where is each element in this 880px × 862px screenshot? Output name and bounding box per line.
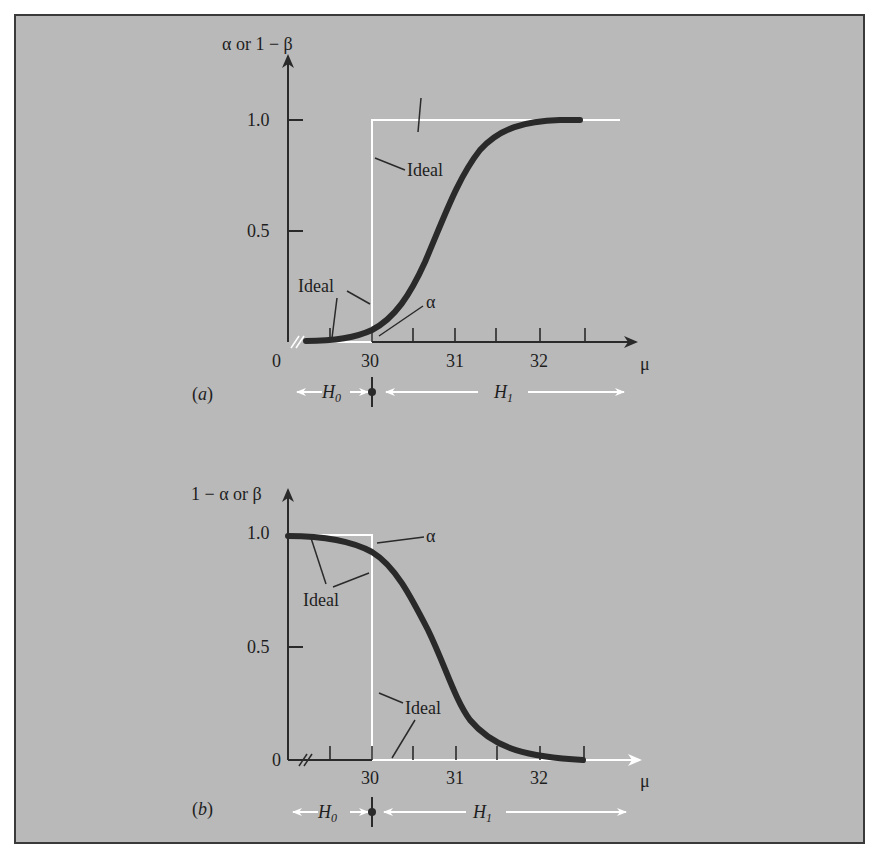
panel-b-label: (b) xyxy=(192,799,213,820)
panel-a-origin-label: 0 xyxy=(272,351,281,371)
panel-a-x-label: μ xyxy=(640,354,650,374)
panel-a-ideal-bottom-leader xyxy=(347,291,370,304)
panel-b-ytick-label-05: 0.5 xyxy=(247,637,270,657)
panel-a-power-curve xyxy=(306,120,580,341)
panel-b-alpha-label: α xyxy=(426,526,436,546)
panel-b-ideal-bottom-label: Ideal xyxy=(405,698,441,718)
panel-a-ytick-label-1: 1.0 xyxy=(247,110,270,130)
panel-a-xtick-30: 30 xyxy=(361,351,379,371)
panel-a-ideal-line xyxy=(305,120,620,342)
panel-b-ytick-label-1: 1.0 xyxy=(247,523,270,543)
panel-a-h1-label: H1 xyxy=(493,382,513,405)
panel-a-ideal-bottom-leader-2 xyxy=(332,298,337,338)
panel-a-ytick-label-05: 0.5 xyxy=(247,221,270,241)
panel-a-y-label: α or 1 − β xyxy=(222,34,293,54)
panel-a-h0-label: H0 xyxy=(321,382,341,405)
panel-b-h-divider-dot xyxy=(368,808,376,816)
panel-b-y-label: 1 − α or β xyxy=(191,484,262,504)
panel-b-h1-label: H1 xyxy=(472,802,492,825)
panel-a-ideal-bottom-label: Ideal xyxy=(298,276,334,296)
panel-a-h-divider-dot xyxy=(368,388,376,396)
panel-a-label: (a) xyxy=(192,384,213,405)
panel-b-xtick-30: 30 xyxy=(361,768,379,788)
panel-a-ideal-top-leader xyxy=(418,98,421,132)
panel-a: α or 1 − β 1.0 0.5 0 30 31 32 μ xyxy=(192,34,650,407)
panel-a-ideal-top-label: Ideal xyxy=(407,160,443,180)
panel-b-oc-curve xyxy=(288,536,583,760)
panel-b-alpha-leader xyxy=(377,537,424,543)
panel-b-ideal-top-leader-2 xyxy=(333,573,369,587)
panel-b-xtick-31: 31 xyxy=(446,768,464,788)
panel-b-ideal-bottom-leader xyxy=(379,693,403,703)
panel-a-xtick-31: 31 xyxy=(446,351,464,371)
panel-b-ideal-top-leader xyxy=(311,538,326,584)
figure-canvas: α or 1 − β 1.0 0.5 0 30 31 32 μ xyxy=(0,0,880,862)
panel-b-ideal-bottom-leader-2 xyxy=(392,720,415,758)
panel-b: 1 − α or β 1.0 0.5 0 30 31 32 μ α xyxy=(191,484,650,827)
panel-b-origin-label: 0 xyxy=(272,750,281,770)
panel-a-alpha-label: α xyxy=(426,292,436,312)
panel-b-ideal-top-label: Ideal xyxy=(303,590,339,610)
panel-b-xtick-32: 32 xyxy=(530,768,548,788)
panel-b-x-label: μ xyxy=(640,771,650,791)
panel-a-ideal-top-leader-2 xyxy=(375,158,405,170)
panel-a-xtick-32: 32 xyxy=(530,351,548,371)
panel-b-h0-label: H0 xyxy=(317,802,337,825)
